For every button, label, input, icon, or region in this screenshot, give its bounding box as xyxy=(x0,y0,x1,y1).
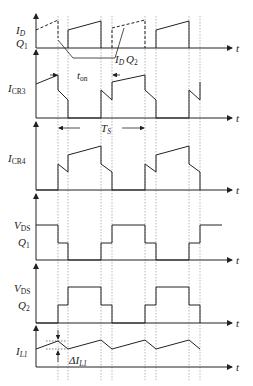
timing-diagram: t t t t t t ID Q1 ICR3 ICR4 VDS Q1 VDS Q… xyxy=(0,0,253,386)
annotation-ton: ton xyxy=(77,69,88,83)
annotation-ts: TS xyxy=(101,122,111,136)
svg-text:t: t xyxy=(236,317,240,329)
svg-text:t: t xyxy=(236,42,240,54)
panel-icr4 xyxy=(36,122,232,190)
annotation-delta-il1: ΔIL1 xyxy=(68,354,87,368)
label-vds1: VDS xyxy=(14,219,30,233)
label-id: ID xyxy=(15,24,26,38)
svg-text:t: t xyxy=(236,112,240,124)
label-vds2-q2: Q2 xyxy=(18,299,30,313)
panel-il1 xyxy=(36,326,232,367)
label-icr4: ICR4 xyxy=(7,152,26,166)
svg-text:t: t xyxy=(236,254,240,266)
label-icr3: ICR3 xyxy=(7,82,26,96)
annotation-id-q2: IDQ2 xyxy=(114,53,138,67)
y-labels: ID Q1 ICR3 ICR4 VDS Q1 VDS Q2 IL1 IDQ2 t… xyxy=(7,24,138,368)
panel-vds1 xyxy=(36,194,232,260)
timing-diagram-svg: t t t t t t ID Q1 ICR3 ICR4 VDS Q1 VDS Q… xyxy=(0,0,253,386)
label-id-q1: Q1 xyxy=(16,37,28,51)
label-vds2: VDS xyxy=(14,282,30,296)
t-axis-labels: t t t t t t xyxy=(236,42,240,373)
label-vds1-q1: Q1 xyxy=(18,236,30,250)
panel-vds2 xyxy=(36,264,232,323)
svg-text:t: t xyxy=(236,361,240,373)
svg-text:t: t xyxy=(236,184,240,196)
label-il1: IL1 xyxy=(15,345,28,359)
panel-id xyxy=(36,14,232,58)
